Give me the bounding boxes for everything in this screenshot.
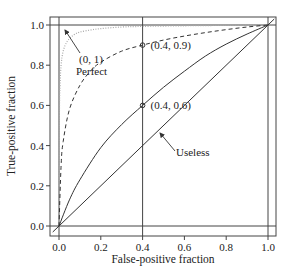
- x-tick-label: 0.6: [178, 241, 192, 253]
- arrow-icon: [160, 133, 175, 151]
- x-tick-label: 0.8: [219, 241, 233, 253]
- y-tick-label: 0.2: [30, 180, 44, 192]
- x-tick-label: 0.4: [136, 241, 150, 253]
- y-tick-label: 0.4: [30, 140, 44, 152]
- y-tick-label: 0.6: [30, 99, 44, 111]
- point-label: (0.4, 0.6): [151, 99, 192, 112]
- roc-chart: 0.00.20.40.60.81.00.00.20.40.60.81.0 (0.…: [0, 0, 295, 277]
- x-tick-label: 0.0: [52, 241, 66, 253]
- x-tick-label: 0.2: [94, 241, 108, 253]
- annotation-perfect-label: Perfect: [76, 65, 107, 77]
- y-tick-label: 0.0: [30, 220, 44, 232]
- point-markers: (0.4, 0.9)(0.4, 0.6): [140, 39, 191, 112]
- y-tick-label: 0.8: [30, 59, 44, 71]
- x-tick-label: 1.0: [261, 241, 275, 253]
- point-label: (0.4, 0.9): [151, 39, 192, 52]
- x-axis-label: False-positive fraction: [111, 253, 214, 266]
- y-tick-label: 1.0: [30, 19, 44, 31]
- annotation-useless-label: Useless: [176, 146, 210, 158]
- y-axis-label: True-positive fraction: [5, 76, 18, 176]
